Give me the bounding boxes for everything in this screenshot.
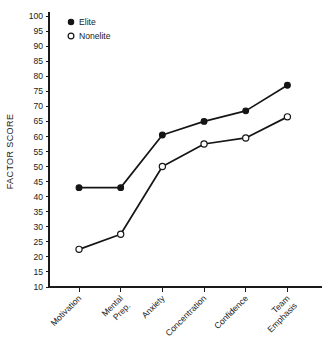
data-point-nonelite	[118, 231, 124, 237]
x-category-label: TeamEmphasis	[258, 293, 299, 334]
y-tick-label: 35	[33, 207, 43, 217]
y-tick-label: 70	[33, 101, 43, 111]
svg-text:Confidence: Confidence	[212, 293, 250, 331]
data-point-elite	[243, 108, 249, 114]
y-tick-label: 90	[33, 41, 43, 51]
x-category-label: Concentration	[163, 293, 208, 338]
data-point-elite	[118, 185, 124, 191]
data-point-nonelite	[159, 163, 165, 169]
data-point-elite	[159, 132, 165, 138]
y-tick-label: 40	[33, 192, 43, 202]
x-category-label: MentalPrep.	[100, 293, 133, 326]
y-tick-label: 25	[33, 237, 43, 247]
legend-label-nonelite: Nonelite	[79, 31, 111, 41]
y-tick-label: 100	[29, 11, 44, 21]
y-tick-label: 15	[33, 267, 43, 277]
y-tick-label: 20	[33, 252, 43, 262]
y-tick-label: 75	[33, 86, 43, 96]
y-tick-label: 60	[33, 132, 43, 142]
data-point-elite	[76, 185, 82, 191]
chart-legend: EliteNonelite	[68, 17, 111, 41]
svg-text:Anxiety: Anxiety	[140, 293, 167, 320]
y-tick-label: 10	[33, 282, 43, 292]
y-axis-ticks: 101520253035404550556065707580859095100	[29, 11, 49, 292]
y-tick-label: 45	[33, 177, 43, 187]
legend-marker-elite	[68, 19, 73, 24]
y-tick-label: 95	[33, 26, 43, 36]
x-category-label: Confidence	[212, 293, 250, 331]
x-axis-ticks	[79, 287, 287, 292]
y-axis-title: FACTOR SCORE	[5, 114, 15, 190]
x-category-labels: MotivationMentalPrep.AnxietyConcentratio…	[48, 293, 299, 338]
y-tick-label: 85	[33, 56, 43, 66]
y-tick-label: 30	[33, 222, 43, 232]
series-line-nonelite	[79, 117, 287, 249]
data-point-elite	[285, 82, 291, 88]
series-line-elite	[79, 85, 287, 187]
y-tick-label: 50	[33, 162, 43, 172]
y-tick-label: 80	[33, 71, 43, 81]
series-layer	[76, 82, 291, 252]
legend-marker-nonelite	[68, 33, 74, 39]
svg-text:Concentration: Concentration	[163, 293, 208, 338]
y-tick-label: 55	[33, 147, 43, 157]
data-point-nonelite	[284, 114, 290, 120]
chart-figure: 101520253035404550556065707580859095100 …	[0, 0, 335, 360]
x-category-label: Motivation	[48, 293, 83, 328]
svg-text:Motivation: Motivation	[48, 293, 83, 328]
y-tick-label: 65	[33, 116, 43, 126]
legend-label-elite: Elite	[79, 17, 96, 27]
data-point-nonelite	[201, 141, 207, 147]
x-category-label: Anxiety	[140, 293, 167, 320]
data-point-elite	[201, 118, 207, 124]
factor-score-line-chart: 101520253035404550556065707580859095100 …	[0, 0, 335, 360]
data-point-nonelite	[76, 246, 82, 252]
data-point-nonelite	[243, 135, 249, 141]
